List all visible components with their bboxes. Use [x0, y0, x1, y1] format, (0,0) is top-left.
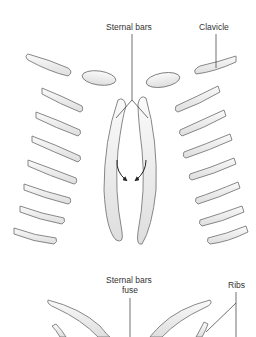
rib-left-2	[36, 112, 81, 136]
rib-left-5	[24, 184, 71, 204]
rib-right-1	[175, 86, 220, 112]
rib-right-6	[199, 206, 244, 226]
label-clavicle: Clavicle	[199, 22, 229, 32]
label-sternal-bars: Sternal bars	[106, 22, 152, 32]
label-ribs: Ribs	[228, 280, 245, 290]
rib-right-7	[207, 226, 248, 244]
rib-left-6	[20, 206, 65, 224]
rib-left-1	[42, 88, 83, 112]
rib-right-3	[183, 134, 232, 158]
leader-ribs-diag	[206, 303, 236, 332]
rib-right-2	[179, 110, 226, 136]
manubrium-right	[145, 70, 181, 90]
label-sternal-bars-fuse-line2: fuse	[122, 285, 138, 295]
clavicle-left	[26, 54, 71, 76]
rib-right-5	[195, 182, 240, 204]
rib-lower-right	[196, 322, 208, 337]
rib-left-7	[14, 228, 57, 244]
sternal-bar-right	[138, 97, 157, 244]
arrow-left-icon	[117, 160, 126, 180]
clavicle-right	[195, 56, 236, 74]
rib-lower-left	[52, 324, 66, 337]
label-sternal-bars-fuse-line1: Sternal bars	[106, 275, 152, 285]
rib-left-4	[28, 160, 77, 184]
manubrium-left	[81, 69, 117, 88]
sternal-bar-left	[104, 99, 126, 241]
rib-left-3	[32, 136, 81, 162]
rib-right-4	[189, 158, 236, 180]
